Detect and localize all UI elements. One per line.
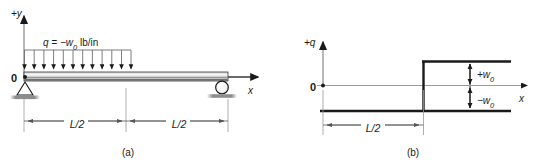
panel-a-origin-label: 0 (11, 68, 17, 86)
figure-canvas (0, 0, 551, 163)
panel-b-caption: (b) (398, 142, 428, 160)
panel-b (317, 42, 527, 135)
panel-a-dimension-label-1: L/2 (66, 114, 88, 132)
panel-b-negative-value-label: −w0 (477, 90, 494, 110)
panel-b-positive-value-label: +w0 (477, 64, 494, 84)
panel-b-x-axis-label: x (519, 88, 524, 106)
panel-b-origin-label: 0 (310, 77, 316, 95)
panel-a-load-arrows (25, 50, 132, 69)
panel-b-x-axis (317, 84, 527, 88)
panel-a-witness-lines (24, 88, 228, 132)
panel-a-y-axis-label: +y (11, 3, 22, 21)
panel-a-x-axis-label: x (248, 80, 253, 98)
panel-a-load-label: q = −w0 lb/in (43, 32, 98, 52)
panel-a-roller-support (207, 81, 237, 98)
panel-a-caption: (a) (113, 142, 143, 160)
panel-a-dimension-label-2: L/2 (168, 114, 190, 132)
panel-b-dimension-label-1: L/2 (362, 118, 384, 136)
panel-a-beam (24, 72, 228, 81)
panel-b-q-axis-label: +q (304, 32, 315, 50)
engineering-figure: +y x 0 q = −w0 lb/in L/2 L/2 (a) +q x 0 … (0, 0, 551, 163)
